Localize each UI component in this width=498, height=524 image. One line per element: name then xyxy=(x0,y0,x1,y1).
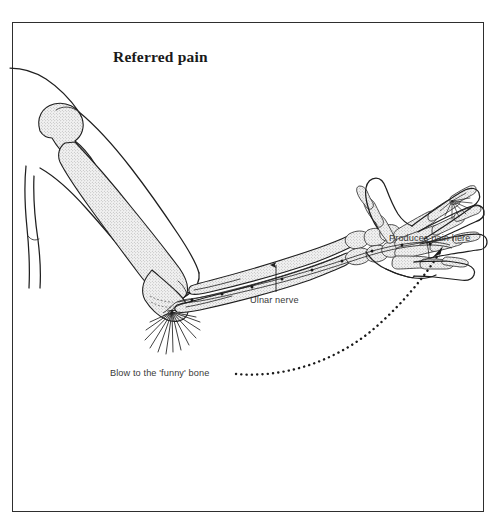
illustration-page: Referred pain xyxy=(0,0,498,524)
ulnar-nerve-label: Ulnar nerve xyxy=(250,295,299,305)
blow-to-funny-bone-label: Blow to the 'funny' bone xyxy=(110,368,209,378)
impact-starburst-elbow xyxy=(145,312,200,354)
humerus-bone xyxy=(39,103,188,321)
figure-title: Referred pain xyxy=(113,48,208,65)
referred-pain-diagram: Referred pain xyxy=(0,0,498,524)
produces-pain-here-label: Produces pain here xyxy=(389,233,470,243)
torso-contours xyxy=(10,68,79,288)
